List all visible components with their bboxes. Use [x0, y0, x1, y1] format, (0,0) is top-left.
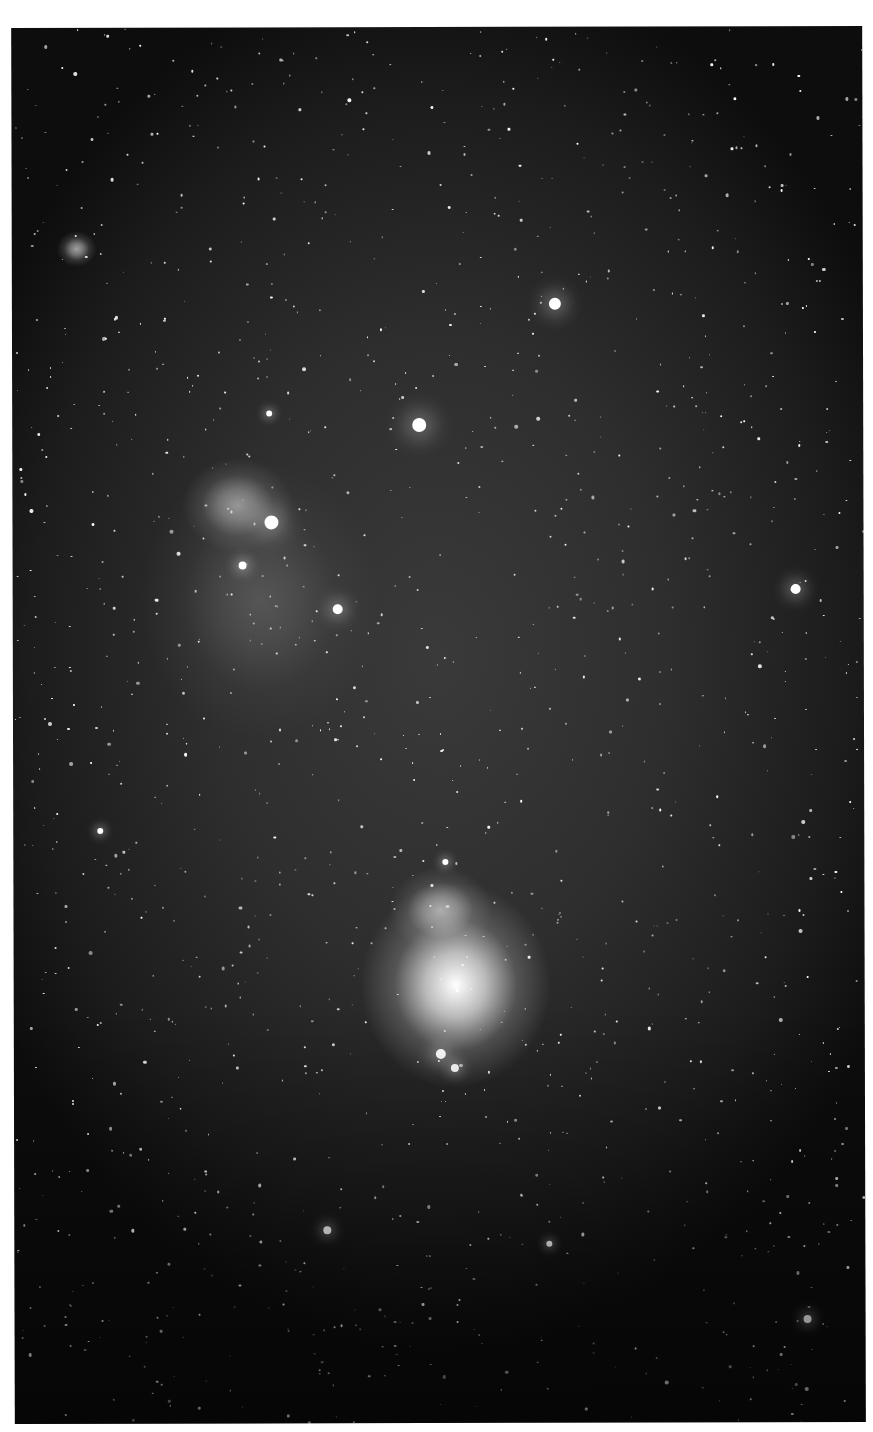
star-flame-lower-star	[239, 562, 247, 570]
star-bottom-mid-star	[546, 1241, 552, 1247]
small-nebula-top-left	[57, 231, 97, 267]
star-field	[11, 26, 862, 28]
flame-nebula	[181, 457, 293, 553]
star-top-left-star	[266, 410, 272, 416]
iota-ori-star	[436, 1049, 446, 1059]
star-right-star	[791, 584, 801, 594]
mintaka-star	[549, 298, 561, 310]
star-trapezium-top-star	[442, 859, 448, 865]
alnilam-star	[412, 418, 426, 432]
orion-nebula	[359, 881, 552, 1090]
star-bottom-left-star	[323, 1226, 331, 1234]
running-man-nebula	[388, 866, 492, 954]
star-left-mid-star	[97, 828, 103, 834]
bright-stars-layer	[11, 26, 862, 28]
astrophotograph	[11, 26, 866, 1424]
star-sword-b-star	[451, 1064, 459, 1072]
star-bottom-right-star	[804, 1315, 812, 1323]
horsehead-region	[139, 460, 380, 741]
alnitak-star	[264, 515, 278, 529]
star-sigma-star	[333, 604, 343, 614]
nebula-layer	[11, 26, 862, 28]
